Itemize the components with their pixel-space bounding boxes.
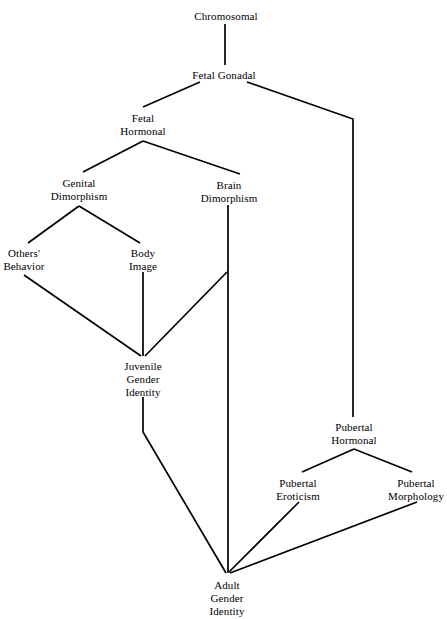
node-body-image[interactable]: BodyImage xyxy=(129,247,157,273)
node-brain-dimorphism[interactable]: BrainDimorphism xyxy=(201,179,258,205)
node-label-line: Identity xyxy=(124,386,161,399)
node-chromosomal[interactable]: Chromosomal xyxy=(194,10,257,23)
node-label-line: Gender xyxy=(209,592,244,605)
node-label-line: Body xyxy=(129,247,157,260)
node-juvenile-gender-identity[interactable]: JuvenileGenderIdentity xyxy=(124,360,161,399)
node-label-line: Image xyxy=(129,260,157,273)
node-label-line: Hormonal xyxy=(331,434,376,447)
node-label-line: Fetal Gonadal xyxy=(192,69,255,82)
node-label-line: Gender xyxy=(124,373,161,386)
node-label-line: Dimorphism xyxy=(51,190,108,203)
node-fetal-gonadal[interactable]: Fetal Gonadal xyxy=(192,69,255,82)
node-layer: ChromosomalFetal GonadalFetalHormonalGen… xyxy=(0,0,447,619)
node-label-line: Adult xyxy=(209,579,244,592)
node-fetal-hormonal[interactable]: FetalHormonal xyxy=(120,112,165,138)
node-adult-gender-identity[interactable]: AdultGenderIdentity xyxy=(209,579,244,618)
node-others-behavior[interactable]: Others'Behavior xyxy=(3,247,44,273)
node-pubertal-morphology[interactable]: PubertalMorphology xyxy=(388,477,444,503)
node-label-line: Juvenile xyxy=(124,360,161,373)
node-label-line: Identity xyxy=(209,605,244,618)
node-genital-dimorphism[interactable]: GenitalDimorphism xyxy=(51,177,108,203)
node-label-line: Behavior xyxy=(3,260,44,273)
node-label-line: Chromosomal xyxy=(194,10,257,23)
diagram-canvas: ChromosomalFetal GonadalFetalHormonalGen… xyxy=(0,0,447,619)
node-label-line: Eroticism xyxy=(276,490,320,503)
node-label-line: Others' xyxy=(3,247,44,260)
node-pubertal-eroticism[interactable]: PubertalEroticism xyxy=(276,477,320,503)
node-label-line: Genital xyxy=(51,177,108,190)
node-label-line: Brain xyxy=(201,179,258,192)
node-label-line: Hormonal xyxy=(120,125,165,138)
node-label-line: Pubertal xyxy=(331,421,376,434)
node-label-line: Fetal xyxy=(120,112,165,125)
node-label-line: Pubertal xyxy=(276,477,320,490)
node-label-line: Pubertal xyxy=(388,477,444,490)
node-label-line: Dimorphism xyxy=(201,192,258,205)
node-pubertal-hormonal[interactable]: PubertalHormonal xyxy=(331,421,376,447)
node-label-line: Morphology xyxy=(388,490,444,503)
